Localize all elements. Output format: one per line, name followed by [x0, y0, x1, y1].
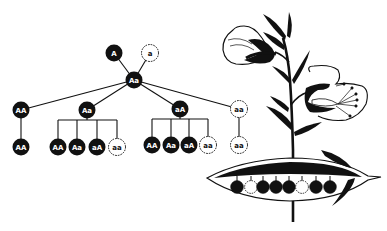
flower-upper: [223, 26, 276, 64]
genotype-label: AA: [16, 107, 27, 115]
pea-dominant: [270, 181, 283, 194]
genotype-label: AA: [53, 144, 64, 152]
mendel-inheritance-diagram: AaAaAAAaaAaaAAAAAaaAaaAAAaaAaaaa: [0, 0, 387, 231]
genotype-label: AA: [16, 144, 27, 152]
genotype-label: aa: [112, 144, 122, 152]
genotype-node-Aa: Aa: [79, 102, 96, 119]
pea-plant-illustration: [207, 12, 381, 222]
pea-dominant: [231, 181, 244, 194]
pea-recessive: [245, 181, 258, 194]
pedigree-nodes: AaAaAAAaaAaaAAAAAaaAaaAAAaaAaaaa: [13, 45, 248, 156]
genotype-label: Aa: [166, 142, 176, 150]
genotype-label: AA: [147, 142, 158, 150]
genotype-label: Aa: [129, 77, 139, 85]
genotype-node-aA: aA: [172, 101, 189, 118]
genotype-node-aa: aa: [231, 101, 248, 118]
genotype-node-AA: AA: [50, 139, 67, 156]
pedigree-edges: [21, 53, 239, 147]
pea-dominant: [324, 181, 337, 194]
genotype-label: aa: [234, 142, 244, 150]
pea-dominant: [310, 181, 323, 194]
genotype-node-AA: AA: [13, 102, 30, 119]
pea-dominant: [257, 181, 270, 194]
genotype-label: Aa: [72, 144, 82, 152]
edge-line: [21, 80, 134, 110]
genotype-label: aa: [203, 142, 213, 150]
genotype-node-A: A: [106, 45, 123, 62]
pea-pod: [207, 150, 381, 206]
genotype-label: A: [111, 50, 117, 58]
genotype-node-AA: AA: [13, 139, 30, 156]
genotype-label: aA: [175, 106, 186, 114]
genotype-node-aA: aA: [181, 137, 198, 154]
genotype-label: aA: [92, 144, 103, 152]
genotype-node-AA: AA: [144, 137, 161, 154]
genotype-node-Aa: Aa: [163, 137, 180, 154]
genotype-label: a: [148, 50, 153, 58]
genotype-label: aa: [234, 106, 244, 114]
pea-dominant: [283, 181, 296, 194]
genotype-node-Aa: Aa: [69, 139, 86, 156]
genotype-node-aa: aa: [109, 139, 126, 156]
genotype-node-aA: aA: [89, 139, 106, 156]
pea-recessive: [296, 181, 309, 194]
genotype-node-a: a: [142, 45, 159, 62]
genotype-node-aa: aa: [200, 137, 217, 154]
genotype-node-Aa: Aa: [126, 72, 143, 89]
genotype-node-aa: aa: [231, 137, 248, 154]
flower-right: [305, 66, 368, 121]
genotype-label: Aa: [82, 107, 92, 115]
genotype-label: aA: [184, 142, 195, 150]
